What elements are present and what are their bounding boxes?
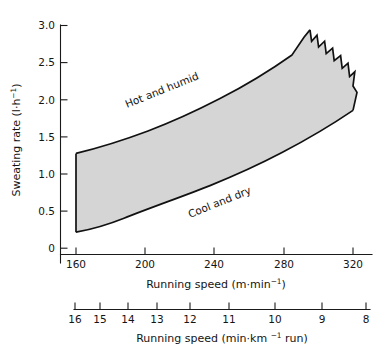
- y-axis-title: Sweating rate (l·h−1): [9, 83, 23, 196]
- y-tick-label-2.0: 2.0: [38, 94, 55, 106]
- x-tick-label-240: 240: [204, 258, 224, 270]
- secondary-x-axis-title-base: Running speed (min·km: [136, 332, 270, 345]
- secondary-x-axis-title: Running speed (min·km −1 run): [136, 331, 308, 345]
- x-tick-label-160: 160: [66, 258, 86, 270]
- y-axis-title-group: Sweating rate (l·h−1): [9, 83, 23, 196]
- x-tick-label-200: 200: [135, 258, 155, 270]
- x-axis-title: Running speed (m·min−1): [146, 277, 286, 291]
- secondary-x-tick-label-14: 14: [121, 313, 135, 325]
- secondary-x-tick-label-16: 16: [68, 313, 82, 325]
- y-axis-group: 3.0 2.5 2.0 1.5 1.0 0.5 0 Sweating rate …: [9, 19, 68, 263]
- y-axis-title-base: Sweating rate (l·h: [10, 99, 23, 197]
- secondary-x-tick-label-12: 12: [183, 313, 196, 325]
- secondary-x-axis-group: 16 15 14 13 12 11 10 9 8 Running speed (…: [68, 303, 370, 346]
- y-axis-title-tail: ): [10, 83, 23, 87]
- annotation-hot-and-humid: Hot and humid: [123, 70, 200, 110]
- secondary-x-tick-label-13: 13: [150, 313, 163, 325]
- chart-canvas: 3.0 2.5 2.0 1.5 1.0 0.5 0 Sweating rate …: [0, 0, 386, 354]
- y-tick-label-2.5: 2.5: [38, 56, 55, 68]
- y-tick-label-3.0: 3.0: [38, 19, 55, 31]
- sweating-rate-chart-figure: 3.0 2.5 2.0 1.5 1.0 0.5 0 Sweating rate …: [0, 0, 386, 354]
- secondary-x-tick-label-15: 15: [93, 313, 106, 325]
- x-tick-label-280: 280: [274, 258, 294, 270]
- y-tick-label-1.0: 1.0: [38, 168, 55, 180]
- x-axis-title-exponent: −1: [271, 277, 282, 286]
- x-tick-label-320: 320: [343, 258, 363, 270]
- secondary-x-axis-title-exponent: −1: [271, 331, 282, 340]
- secondary-x-tick-label-10: 10: [268, 313, 281, 325]
- y-tick-label-0: 0: [48, 242, 55, 254]
- secondary-x-tick-label-11: 11: [222, 313, 235, 325]
- secondary-x-tick-label-9: 9: [319, 313, 326, 325]
- y-tick-label-1.5: 1.5: [38, 131, 55, 143]
- y-axis-title-exponent: −1: [9, 87, 18, 98]
- x-axis-title-base: Running speed (m·min: [146, 278, 271, 291]
- x-axis-group: 160 200 240 280 320 Running speed (m·min…: [61, 248, 373, 292]
- secondary-x-tick-label-8: 8: [363, 313, 370, 325]
- y-tick-label-0.5: 0.5: [38, 205, 55, 217]
- secondary-x-axis-title-tail: run): [282, 332, 308, 345]
- x-axis-title-tail: ): [282, 278, 286, 291]
